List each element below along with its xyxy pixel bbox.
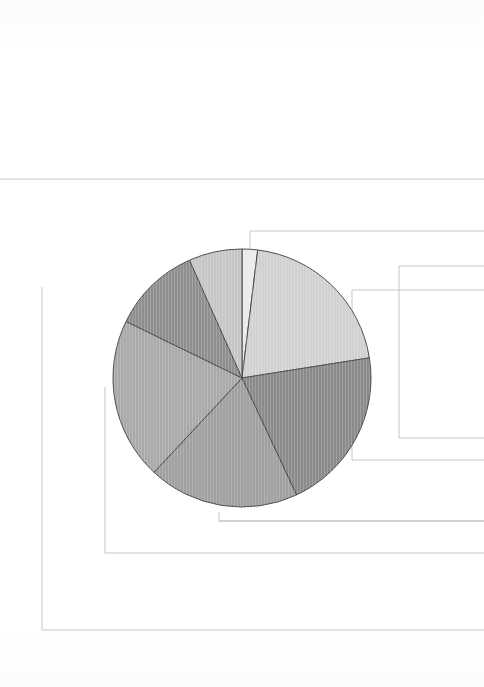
page-canvas bbox=[0, 0, 484, 687]
pie-chart bbox=[0, 0, 484, 687]
pie-hatch-overlay bbox=[113, 249, 371, 507]
pie-slice-hatch bbox=[242, 250, 369, 378]
